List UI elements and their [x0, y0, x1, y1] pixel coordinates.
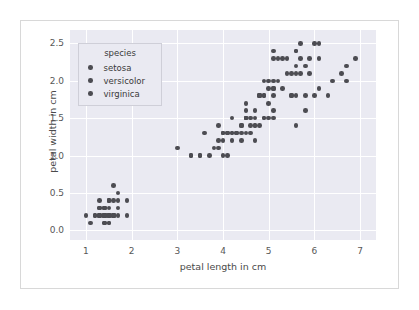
data-point: [253, 116, 258, 121]
data-point: [271, 79, 276, 84]
data-point: [285, 56, 290, 61]
x-tick-label-5: 5: [266, 246, 272, 256]
x-axis-title: petal length in cm: [70, 261, 376, 272]
data-point: [280, 56, 285, 61]
data-point: [285, 71, 290, 76]
data-point: [239, 131, 244, 136]
data-point: [189, 153, 194, 158]
data-point: [97, 198, 102, 203]
data-point: [125, 213, 130, 218]
data-point: [307, 56, 312, 61]
data-point: [294, 64, 299, 69]
gridline-vertical-3: [177, 30, 178, 240]
data-point: [262, 93, 267, 98]
data-point: [234, 131, 239, 136]
data-point: [107, 221, 112, 226]
figure-card: 0.00.51.01.52.02.5 1234567 petal length …: [20, 20, 399, 289]
data-point: [239, 123, 244, 128]
data-point: [230, 116, 235, 121]
data-point: [116, 213, 121, 218]
data-point: [111, 198, 116, 203]
data-point: [248, 123, 253, 128]
data-point: [116, 206, 121, 211]
data-point: [289, 93, 294, 98]
data-point: [298, 56, 303, 61]
data-point: [339, 71, 344, 76]
data-point: [307, 71, 312, 76]
data-point: [312, 93, 317, 98]
data-point: [353, 56, 358, 61]
data-point: [88, 221, 93, 226]
data-point: [244, 108, 249, 113]
data-point: [294, 123, 299, 128]
data-point: [175, 146, 180, 151]
data-point: [271, 86, 276, 91]
data-point: [271, 93, 276, 98]
data-point: [330, 79, 335, 84]
gridline-vertical-7: [360, 30, 361, 240]
legend-item-setosa[interactable]: setosa: [85, 61, 155, 74]
data-point: [244, 116, 249, 121]
data-point: [298, 71, 303, 76]
data-point: [326, 93, 331, 98]
gridline-vertical-4: [223, 30, 224, 240]
data-point: [107, 213, 112, 218]
data-point: [207, 153, 212, 158]
data-point: [239, 138, 244, 143]
data-point: [102, 206, 107, 211]
data-point: [317, 86, 322, 91]
x-tick-label-3: 3: [174, 246, 180, 256]
data-point: [271, 108, 276, 113]
gridline-horizontal-1.5: [70, 118, 376, 119]
data-point: [84, 213, 89, 218]
data-point: [266, 101, 271, 106]
data-point: [303, 93, 308, 98]
legend-marker-icon: [88, 65, 93, 70]
data-point: [266, 86, 271, 91]
legend-item-label: virginica: [104, 89, 140, 99]
legend-item-versicolor[interactable]: versicolor: [85, 74, 155, 87]
data-point: [216, 123, 221, 128]
data-point: [248, 116, 253, 121]
data-point: [271, 56, 276, 61]
data-point: [271, 49, 276, 54]
data-point: [276, 79, 281, 84]
data-point: [266, 79, 271, 84]
data-point: [102, 213, 107, 218]
legend-marker-icon: [88, 78, 93, 83]
gridline-horizontal-0.0: [70, 230, 376, 231]
data-point: [294, 71, 299, 76]
data-point: [230, 138, 235, 143]
data-point: [280, 86, 285, 91]
x-tick-label-2: 2: [129, 246, 135, 256]
data-point: [111, 183, 116, 188]
data-point: [303, 64, 308, 69]
data-point: [344, 64, 349, 69]
data-point: [294, 49, 299, 54]
legend-item-label: setosa: [104, 63, 132, 73]
data-point: [244, 101, 249, 106]
data-point: [202, 131, 207, 136]
data-point: [116, 191, 121, 196]
data-point: [102, 221, 107, 226]
data-point: [107, 206, 112, 211]
data-point: [271, 116, 276, 121]
legend-entries: setosaversicolorvirginica: [85, 61, 155, 100]
data-point: [317, 41, 322, 46]
data-point: [317, 56, 322, 61]
data-point: [225, 131, 230, 136]
data-point: [125, 198, 130, 203]
data-point: [257, 93, 262, 98]
legend-item-virginica[interactable]: virginica: [85, 87, 155, 100]
data-point: [253, 138, 258, 143]
data-point: [225, 153, 230, 158]
data-point: [303, 108, 308, 113]
data-point: [198, 153, 203, 158]
x-tick-label-7: 7: [357, 246, 363, 256]
data-point: [257, 123, 262, 128]
data-point: [294, 93, 299, 98]
data-point: [216, 146, 221, 151]
x-tick-label-4: 4: [220, 246, 226, 256]
data-point: [221, 138, 226, 143]
data-point: [344, 79, 349, 84]
